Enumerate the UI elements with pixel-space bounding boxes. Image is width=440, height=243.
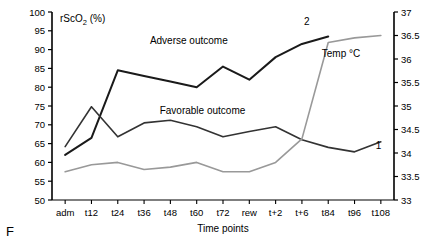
left-tick-label: 95 xyxy=(34,25,45,36)
annotation-label: 1 xyxy=(376,140,382,151)
right-tick-label: 36.5 xyxy=(401,30,420,41)
x-tick-label: t48 xyxy=(164,207,177,218)
left-tick-label: 70 xyxy=(34,119,45,130)
left-axis-ticks: 50556065707580859095100 xyxy=(29,7,52,206)
series-line xyxy=(65,36,328,154)
x-tick-label: t84 xyxy=(322,207,335,218)
left-tick-label: 85 xyxy=(34,63,45,74)
annotation-label: Adverse outcome xyxy=(150,35,228,46)
right-tick-label: 33.5 xyxy=(401,171,420,182)
y-axis-title: rScO2 (%) xyxy=(60,13,105,27)
x-tick-label: t24 xyxy=(111,207,124,218)
right-tick-label: 35 xyxy=(401,101,412,112)
left-tick-label: 50 xyxy=(34,195,45,206)
x-tick-label: t36 xyxy=(137,207,150,218)
x-tick-label: adm xyxy=(56,207,75,218)
left-tick-label: 75 xyxy=(34,101,45,112)
right-tick-label: 34 xyxy=(401,148,412,159)
x-tick-label: t12 xyxy=(85,207,98,218)
left-tick-label: 60 xyxy=(34,157,45,168)
x-axis-title: Time points xyxy=(197,223,248,234)
left-tick-label: 80 xyxy=(34,82,45,93)
x-tick-label: rew xyxy=(242,207,257,218)
right-tick-label: 34.5 xyxy=(401,124,420,135)
left-tick-label: 100 xyxy=(29,7,45,18)
annotation-label: 2 xyxy=(304,16,310,27)
x-tick-label: t96 xyxy=(348,207,361,218)
x-tick-label: t60 xyxy=(190,207,203,218)
x-axis-ticks: admt12t24t36t48t60t72rewt+2t+6t84t96t108 xyxy=(56,200,390,218)
x-tick-label: t108 xyxy=(372,207,391,218)
right-tick-label: 36 xyxy=(401,54,412,65)
left-tick-label: 65 xyxy=(34,138,45,149)
figure-panel: 50556065707580859095100 3333.53434.53535… xyxy=(0,0,440,243)
x-tick-label: t+2 xyxy=(269,207,282,218)
right-tick-label: 37 xyxy=(401,7,412,18)
annotation-label: Favorable outcome xyxy=(160,105,246,116)
left-tick-label: 90 xyxy=(34,44,45,55)
right-tick-label: 35.5 xyxy=(401,77,420,88)
left-tick-label: 55 xyxy=(34,176,45,187)
right-axis-ticks: 3333.53434.53535.53636.537 xyxy=(394,7,420,206)
x-tick-label: t72 xyxy=(216,207,229,218)
right-tick-label: 33 xyxy=(401,195,412,206)
x-tick-label: t+6 xyxy=(295,207,308,218)
annotation-label: Temp °C xyxy=(322,48,360,59)
panel-letter: F xyxy=(6,224,14,239)
line-chart: 50556065707580859095100 3333.53434.53535… xyxy=(0,0,440,243)
